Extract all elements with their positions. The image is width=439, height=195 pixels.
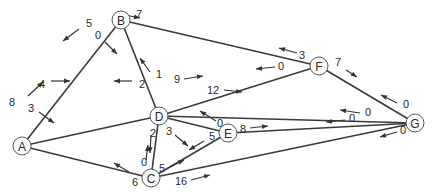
- flow-arrow-icon: [346, 70, 357, 77]
- flow-arrow-icon: [191, 174, 210, 180]
- capacity-labels-layer: 8542360173901202030558016070: [9, 8, 409, 188]
- network-diagram: 8542360173901202030558016070 ABCDEFG: [0, 0, 439, 195]
- edge-a-c: [22, 146, 151, 178]
- node-b: B: [112, 11, 130, 29]
- capacity-label: 8: [9, 96, 15, 108]
- flow-arrow-icon: [175, 135, 188, 146]
- flow-arrow-icon: [114, 79, 132, 84]
- edge-d-g: [159, 116, 415, 123]
- flow-arrow-icon: [279, 47, 297, 53]
- capacity-label: 5: [86, 17, 92, 29]
- node-label: G: [410, 117, 419, 131]
- flow-arrow-icon: [63, 29, 79, 41]
- capacity-label: 5: [159, 162, 165, 174]
- node-label: C: [147, 172, 156, 186]
- capacity-label: 8: [240, 123, 246, 135]
- flow-arrow-icon: [256, 66, 275, 71]
- capacity-label: 12: [207, 84, 219, 96]
- capacity-label: 9: [174, 73, 180, 85]
- node-c: C: [142, 169, 160, 187]
- flow-arrow-icon: [250, 124, 268, 129]
- node-e: E: [219, 124, 237, 142]
- capacity-label: 5: [209, 130, 215, 142]
- flow-arrow-icon: [170, 160, 184, 167]
- capacity-label: 3: [299, 49, 305, 61]
- node-a: A: [13, 137, 31, 155]
- edge-c-g: [151, 123, 415, 178]
- graph-svg: 8542360173901202030558016070 ABCDEFG: [0, 0, 439, 195]
- capacity-label: 4: [39, 78, 45, 90]
- capacity-label: 2: [139, 78, 145, 90]
- capacity-label: 6: [132, 176, 138, 188]
- capacity-label: 1: [156, 68, 162, 80]
- capacity-label: 0: [365, 106, 371, 118]
- node-label: B: [117, 14, 125, 28]
- capacity-label: 7: [335, 56, 341, 68]
- node-label: D: [155, 110, 164, 124]
- capacity-label: 3: [28, 102, 34, 114]
- node-label: F: [315, 60, 322, 74]
- edges-layer: [22, 20, 415, 178]
- capacity-label: 0: [349, 112, 355, 124]
- capacity-label: 0: [278, 60, 284, 72]
- capacity-label: 0: [95, 29, 101, 41]
- nodes-layer: ABCDEFG: [13, 11, 424, 187]
- flow-arrow-icon: [200, 111, 216, 121]
- flow-arrow-icon: [105, 42, 117, 54]
- edge-b-f: [121, 20, 319, 66]
- flow-arrow-icon: [380, 132, 397, 138]
- node-f: F: [310, 57, 328, 75]
- capacity-label: 16: [175, 175, 187, 187]
- flow-arrow-icon: [381, 95, 397, 103]
- capacity-label: 0: [403, 98, 409, 110]
- edge-e-g: [228, 123, 415, 133]
- flow-arrow-icon: [184, 75, 203, 80]
- node-d: D: [150, 107, 168, 125]
- node-label: A: [18, 140, 26, 154]
- capacity-label: 0: [400, 124, 406, 136]
- node-label: E: [224, 127, 232, 141]
- node-g: G: [406, 114, 424, 132]
- capacity-label: 3: [166, 125, 172, 137]
- flow-arrow-icon: [51, 79, 70, 84]
- edge-b-d: [121, 20, 159, 116]
